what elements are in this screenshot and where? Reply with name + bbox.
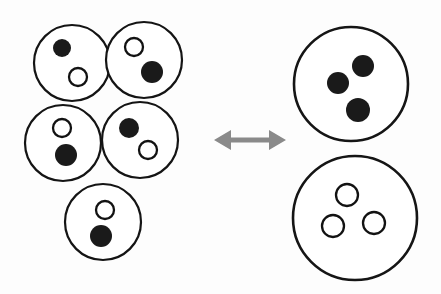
vessel-top-left-outline [34, 25, 110, 101]
vessel-filled-only-outline [294, 27, 408, 141]
vessel-mid-right [102, 102, 178, 178]
vessel-filled-only-particle-filled-2 [327, 72, 349, 94]
vessel-top-right-outline [106, 22, 182, 98]
equilibrium-diagram [0, 0, 441, 294]
vessel-top-left [34, 25, 110, 101]
diagram-canvas [0, 0, 441, 294]
vessel-bottom-outline [65, 184, 141, 260]
right-separated-group [293, 27, 417, 280]
vessel-open-only [293, 156, 417, 280]
vessel-mid-right-particle-filled-1 [119, 118, 139, 138]
vessel-open-only-particle-open-3 [363, 212, 385, 234]
equilibrium-arrow-group [214, 130, 286, 150]
vessel-mid-right-outline [102, 102, 178, 178]
vessel-top-left-particle-open-2 [69, 68, 87, 86]
vessel-filled-only-particle-filled-1 [352, 55, 374, 77]
vessel-top-right-particle-filled-2 [141, 61, 163, 83]
vessel-top-right-particle-open-1 [125, 38, 143, 56]
vessel-bottom-particle-open-1 [96, 201, 114, 219]
vessel-mid-left-outline [25, 105, 101, 181]
vessel-open-only-outline [293, 156, 417, 280]
left-mixed-cluster-group [25, 22, 182, 260]
vessel-top-right [106, 22, 182, 98]
double-headed-equilibrium-arrow [214, 130, 286, 150]
vessel-bottom-particle-filled-2 [90, 225, 112, 247]
vessel-bottom [65, 184, 141, 260]
vessel-mid-right-particle-open-2 [139, 141, 157, 159]
vessel-open-only-particle-open-2 [322, 215, 344, 237]
vessel-mid-left [25, 105, 101, 181]
vessel-open-only-particle-open-1 [336, 184, 358, 206]
vessel-mid-left-particle-filled-2 [55, 144, 77, 166]
vessel-filled-only [294, 27, 408, 141]
vessel-filled-only-particle-filled-3 [346, 98, 370, 122]
vessel-top-left-particle-filled-1 [53, 39, 71, 57]
vessel-mid-left-particle-open-1 [53, 119, 71, 137]
